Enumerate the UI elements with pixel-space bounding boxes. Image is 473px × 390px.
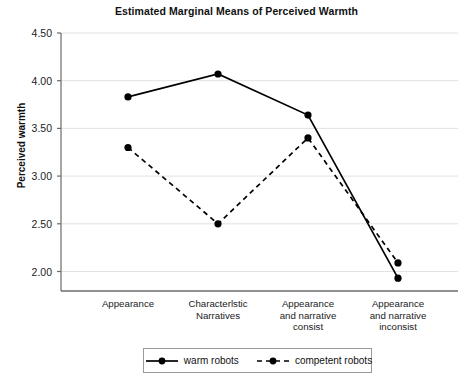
- legend-marker: [158, 357, 165, 364]
- series-line-2: [128, 138, 398, 263]
- x-tick-label-line: Appearance: [354, 298, 442, 310]
- x-tick-label-line: Appearance: [84, 298, 172, 310]
- chart-container: Estimated Marginal Means of Perceived Wa…: [0, 0, 473, 390]
- legend-item-2[interactable]: competent robots: [256, 355, 372, 367]
- data-point-marker: [394, 259, 401, 266]
- x-tick-label-line: inconsist: [354, 321, 442, 333]
- data-point-marker: [304, 134, 311, 141]
- x-tick-label-line: Appearance: [264, 298, 352, 310]
- x-tick-label: Appearanceand narrativeinconsist: [354, 298, 442, 333]
- x-tick-label: Appearance: [84, 298, 172, 310]
- x-tick-label-line: and narrative: [354, 310, 442, 322]
- data-point-marker: [394, 275, 401, 282]
- legend-item-1[interactable]: warm robots: [145, 355, 239, 367]
- x-tick-label-line: Characterlstic: [174, 298, 262, 310]
- data-point-marker: [124, 93, 131, 100]
- x-tick-label-line: consist: [264, 321, 352, 333]
- legend-label: warm robots: [184, 355, 239, 366]
- legend-marker: [269, 357, 276, 364]
- x-tick-label-line: and narrative: [264, 310, 352, 322]
- chart-legend: warm robotscompetent robots: [143, 348, 372, 373]
- x-tick-label: Appearanceand narrativeconsist: [264, 298, 352, 333]
- data-point-marker: [214, 220, 221, 227]
- x-tick-label-line: Narratives: [174, 310, 262, 322]
- data-point-marker: [214, 70, 221, 77]
- legend-label: competent robots: [295, 355, 372, 366]
- x-tick-label: CharacterlsticNarratives: [174, 298, 262, 321]
- legend-swatch-dashed: [256, 355, 290, 367]
- data-point-marker: [304, 111, 311, 118]
- legend-swatch-solid: [145, 355, 179, 367]
- data-point-marker: [124, 144, 131, 151]
